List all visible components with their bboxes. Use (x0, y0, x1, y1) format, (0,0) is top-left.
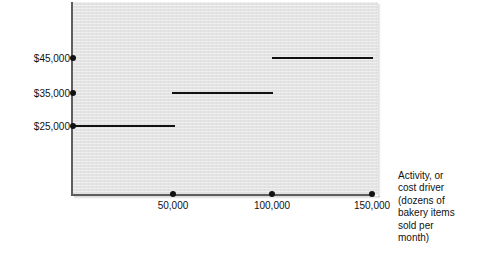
x-axis-caption-line-1: Activity, or (398, 170, 474, 182)
x-axis-caption-line-2: cost driver (398, 182, 474, 194)
x-axis-caption-line-6: month) (398, 232, 474, 244)
plot-right-shadow (378, 4, 381, 197)
step-segment-35000 (172, 92, 273, 94)
x-tick-label-50000: 50,000 (143, 200, 203, 211)
x-axis-caption-line-3: (dozens of (398, 195, 474, 207)
x-axis-caption: Activity, or cost driver (dozens of bake… (398, 170, 474, 244)
x-axis-marker-50000 (170, 191, 176, 197)
x-tick-label-150000: 150,000 (342, 200, 402, 211)
y-axis-marker-45000 (70, 55, 76, 61)
y-tick-label-25000: $25,000 (14, 121, 70, 132)
step-cost-chart: $45,000 $35,000 $25,000 50,000 100,000 1… (0, 0, 478, 264)
y-tick-label-35000: $35,000 (14, 88, 70, 99)
x-tick-label-100000: 100,000 (242, 200, 302, 211)
step-segment-25000 (73, 125, 175, 127)
plot-area (72, 2, 378, 195)
y-tick-label-45000: $45,000 (14, 53, 70, 64)
x-axis-caption-line-4: bakery items (398, 207, 474, 219)
step-segment-45000 (272, 57, 373, 59)
x-axis-caption-line-5: sold per (398, 220, 474, 232)
x-axis-marker-100000 (269, 191, 275, 197)
x-axis-marker-150000 (369, 191, 375, 197)
y-axis-line (71, 2, 73, 196)
y-axis-marker-35000 (70, 90, 76, 96)
plot-bottom-shadow (74, 196, 380, 199)
x-axis-line (71, 194, 374, 196)
